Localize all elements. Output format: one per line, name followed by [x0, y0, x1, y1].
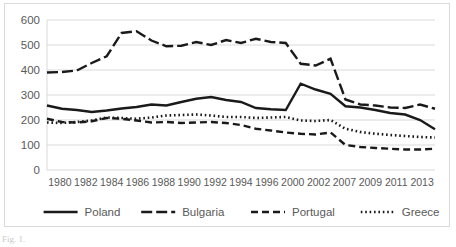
plot-area: 0100200300400500600198019821984198619881… [5, 4, 449, 226]
legend-label-portugal[interactable]: Portugal [292, 206, 335, 218]
x-axis-labels: 1980198219841986198819901992199419962000… [48, 176, 434, 188]
x-axis-tick-label: 1990 [178, 176, 202, 188]
x-axis-tick-label: 2011 [385, 176, 408, 188]
x-axis-tick-label: 1996 [255, 176, 279, 188]
y-axis-tick-label: 100 [21, 139, 40, 151]
x-axis-tick-label: 1984 [100, 176, 124, 188]
line-chart: 0100200300400500600198019821984198619881… [5, 4, 451, 228]
x-axis-tick-label: 1986 [126, 176, 150, 188]
x-axis-tick-label: 1980 [48, 176, 72, 188]
y-axis-tick-label: 200 [21, 114, 40, 126]
series-group [47, 31, 435, 149]
figure-caption: Fig. 1. [0, 231, 456, 247]
x-axis-tick-label: 2000 [281, 176, 305, 188]
series-line-greece [47, 115, 435, 138]
y-axis-tick-label: 500 [21, 39, 40, 51]
x-axis-tick-label: 2013 [410, 176, 434, 188]
legend-label-greece[interactable]: Greece [402, 206, 440, 218]
legend-label-poland[interactable]: Poland [85, 206, 121, 218]
legend-label-bulgaria[interactable]: Bulgaria [182, 206, 225, 218]
x-axis-tick-label: 1982 [74, 176, 98, 188]
x-axis-tick-label: 2009 [359, 176, 383, 188]
x-axis-tick-label: 2007 [333, 176, 357, 188]
y-axis-tick-label: 400 [21, 64, 40, 76]
legend: PolandBulgariaPortugalGreece [44, 206, 440, 218]
caption-text: Fig. 1. [0, 231, 456, 247]
x-axis-tick-label: 1988 [152, 176, 176, 188]
y-axis-tick-label: 0 [34, 164, 40, 176]
y-axis-tick-label: 300 [21, 89, 40, 101]
chart-frame: 0100200300400500600198019821984198619881… [4, 3, 450, 227]
x-axis-tick-label: 2002 [307, 176, 331, 188]
x-axis-tick-label: 1992 [203, 176, 227, 188]
gridlines: 0100200300400500600 [21, 14, 435, 176]
x-axis-tick-label: 1994 [229, 176, 253, 188]
y-axis-tick-label: 600 [21, 14, 40, 26]
